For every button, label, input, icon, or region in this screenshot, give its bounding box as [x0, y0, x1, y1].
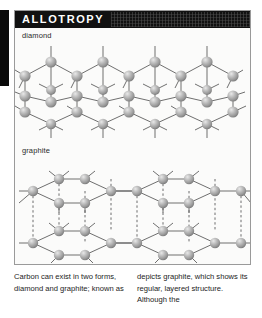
- allotropy-figure-page: ALLOTROPY diamond: [0, 0, 262, 318]
- panel-header: ALLOTROPY: [15, 11, 251, 28]
- page-title: ALLOTROPY: [22, 13, 104, 26]
- caption-left-text: Carbon can exist in two forms, diamond a…: [14, 271, 127, 294]
- caption-right-column: depicts graphite, which shows its regula…: [137, 271, 250, 318]
- caption-left-column: Carbon can exist in two forms, diamond a…: [14, 271, 127, 318]
- header-texture: [111, 12, 251, 27]
- graphite-lattice-diagram: [15, 155, 251, 265]
- figure-panel: ALLOTROPY diamond: [14, 10, 251, 265]
- caption-block: Carbon can exist in two forms, diamond a…: [14, 271, 251, 318]
- diamond-lattice-diagram: [15, 38, 251, 142]
- caption-right-text: depicts graphite, which shows its regula…: [137, 271, 250, 306]
- diamond-atoms: [19, 56, 238, 129]
- graphite-label: graphite: [22, 146, 50, 155]
- left-black-spine: [0, 10, 9, 86]
